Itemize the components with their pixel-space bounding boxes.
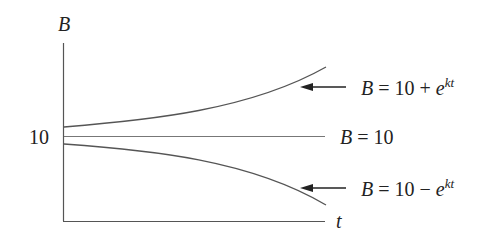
arrow-lower-icon [300,184,346,192]
upper-lhs: B [361,77,373,99]
lower-curve [64,144,326,205]
middle-lhs: B [340,126,352,148]
x-axis-label: t [336,211,342,231]
lower-lhs: B [361,178,373,200]
equilibrium-label: B = 10 [340,127,394,147]
upper-rhs: = 10 + e [373,77,444,99]
lower-exp: kt [445,176,454,191]
plot-area [0,0,502,243]
upper-curve [64,67,326,127]
y-axis-label: B [58,14,70,34]
arrow-upper-icon [300,83,346,91]
y-tick-10: 10 [29,127,49,147]
middle-rhs: = 10 [352,126,393,148]
upper-curve-label: B = 10 + ekt [361,78,454,98]
lower-rhs: = 10 − e [373,178,444,200]
upper-exp: kt [445,75,454,90]
lower-curve-label: B = 10 − ekt [361,179,454,199]
